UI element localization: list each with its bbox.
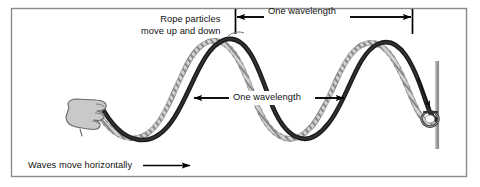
label-rope-particles: Rope particles move up and down — [141, 14, 220, 37]
label-wavelength-top: One wavelength — [268, 6, 336, 18]
label-waves-move-horizontally: Waves move horizontally — [28, 160, 132, 172]
label-rope-particles-line2: move up and down — [141, 26, 220, 38]
label-wavelength-middle: One wavelength — [233, 92, 301, 104]
label-rope-particles-line1: Rope particles — [141, 14, 220, 26]
wall-post-icon — [436, 61, 440, 149]
